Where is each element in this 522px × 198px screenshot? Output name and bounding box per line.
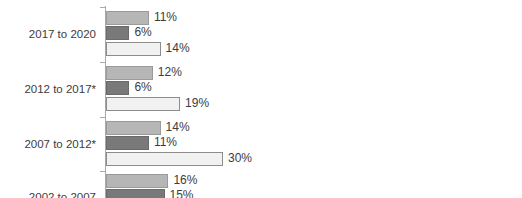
bar-value-label: 30%	[228, 151, 252, 166]
axis-tick	[100, 62, 105, 63]
bar-chart: 2017 to 2020 11% 6% 14% 2012 to 2017* 12…	[0, 0, 522, 198]
bar	[106, 66, 153, 80]
bar-value-label: 12%	[158, 65, 182, 80]
bar	[106, 97, 180, 111]
bar	[106, 136, 149, 150]
bar	[106, 42, 161, 56]
bar	[106, 152, 223, 166]
bar	[106, 174, 168, 188]
bar-value-label: 14%	[166, 120, 190, 135]
bar	[106, 11, 149, 25]
axis-tick	[100, 7, 105, 8]
bar	[106, 81, 129, 95]
bar	[106, 121, 161, 135]
bar-value-label: 14%	[166, 41, 190, 56]
bar	[106, 26, 129, 40]
axis-tick	[100, 117, 105, 118]
category-label: 2012 to 2017*	[0, 83, 96, 96]
bar-value-label: 6%	[134, 25, 151, 40]
bar	[106, 189, 165, 198]
category-label: 2017 to 2020	[0, 28, 96, 41]
bar-value-label: 11%	[154, 135, 177, 150]
category-label: 2007 to 2012*	[0, 138, 96, 151]
bar-value-label: 16%	[173, 173, 197, 188]
axis-tick	[100, 171, 105, 172]
bar-value-label: 6%	[134, 80, 151, 95]
bar-value-label: 15%	[170, 188, 194, 198]
bar-value-label: 19%	[185, 96, 209, 111]
bar-value-label: 11%	[154, 10, 177, 25]
category-label: 2002 to 2007	[0, 191, 96, 198]
